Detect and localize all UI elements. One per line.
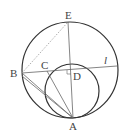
- big-circle: [22, 22, 118, 118]
- label-B: B: [10, 67, 17, 79]
- label-C: C: [41, 59, 48, 71]
- line-l: [22, 66, 117, 73]
- label-E: E: [65, 9, 72, 21]
- label-l: l: [104, 54, 107, 66]
- label-A: A: [69, 120, 77, 132]
- geometry-diagram: E B C D A l: [0, 0, 128, 134]
- small-circle: [45, 64, 99, 118]
- segment-CA: [47, 71, 73, 118]
- label-D: D: [73, 70, 81, 82]
